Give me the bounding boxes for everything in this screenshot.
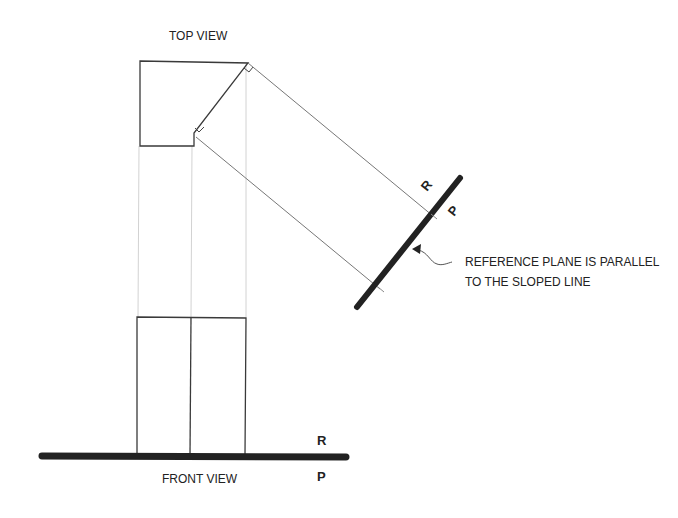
horizontal-reference-line xyxy=(42,456,346,457)
front-view-label: FRONT VIEW xyxy=(162,472,238,486)
right-angle-marker-icon xyxy=(195,67,253,132)
annotation-line-1: REFERENCE PLANE IS PARALLEL xyxy=(465,255,660,269)
horizontal-label-r: R xyxy=(317,433,327,448)
annotation-line-2: TO THE SLOPED LINE xyxy=(465,275,591,289)
front-view xyxy=(137,317,246,455)
sloped-reference-line xyxy=(357,178,460,307)
sloped-label-p: P xyxy=(445,202,462,218)
annotation-arrow-icon xyxy=(412,244,452,265)
top-view-outline xyxy=(140,61,248,146)
reference-ticks xyxy=(378,214,437,292)
vertical-projectors xyxy=(138,64,246,317)
orthographic-diagram: R P REFERENCE PLANE IS PARALLEL TO THE S… xyxy=(0,0,678,518)
sloped-label-r: R xyxy=(418,177,436,194)
horizontal-label-p: P xyxy=(317,469,326,484)
top-view-label: TOP VIEW xyxy=(169,29,228,43)
